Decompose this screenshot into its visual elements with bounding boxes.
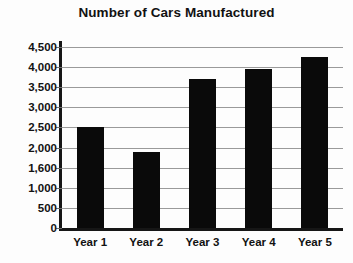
- y-axis-tick-label: 4,500: [3, 41, 57, 53]
- y-axis-tick-label: 2,500: [3, 121, 57, 133]
- bar: [189, 79, 216, 228]
- y-axis-tick-label: 0: [3, 222, 57, 234]
- y-axis-tick-label: 1,000: [3, 182, 57, 194]
- chart-title: Number of Cars Manufactured: [0, 5, 353, 20]
- y-axis-tick-label: 4,000: [3, 61, 57, 73]
- x-axis-tick-label: Year 5: [286, 236, 344, 248]
- bar: [301, 57, 328, 228]
- y-axis-tick-label: 2,000: [3, 142, 57, 154]
- bar: [77, 127, 104, 228]
- gridline: [62, 47, 343, 48]
- x-axis-line: [59, 228, 343, 231]
- bar: [133, 152, 160, 228]
- plot-area: [62, 47, 343, 228]
- bar-chart: Number of Cars Manufactured 4,5004,0003,…: [0, 0, 353, 263]
- x-axis-tick-label: Year 4: [230, 236, 288, 248]
- bar: [245, 69, 272, 228]
- x-axis-tick-label: Year 1: [61, 236, 119, 248]
- x-axis-tick-label: Year 3: [174, 236, 232, 248]
- x-axis-tick-label: Year 2: [117, 236, 175, 248]
- y-axis-tick-label: 1,600: [3, 162, 57, 174]
- y-axis-tick-label: 3,000: [3, 101, 57, 113]
- y-axis-tick-label: 500: [3, 202, 57, 214]
- y-axis-tick-label: 3,500: [3, 81, 57, 93]
